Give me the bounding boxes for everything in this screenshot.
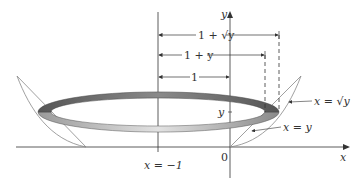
curve-label-sqrt: x = √y	[314, 95, 350, 108]
curve-label-linear: x = y	[283, 121, 312, 134]
outer-radius-label: 1 + √y	[198, 29, 235, 42]
unit-distance-label: 1	[191, 71, 198, 84]
dimension-outer-radius: 1 + √y	[159, 29, 279, 42]
mirrored-region	[17, 76, 86, 147]
x-axis	[16, 144, 350, 150]
diagram-canvas: 1 + √y 1 + y 1 y x = √y x = y y x 0 x = …	[0, 0, 363, 187]
dimension-unit: 1	[159, 71, 229, 84]
x-axis-arrow-icon	[343, 144, 350, 150]
y-marker-label: y	[217, 106, 225, 119]
rotation-axis-label: x = −1	[144, 159, 183, 172]
sqrt-curve-pointer	[289, 101, 312, 102]
origin-label: 0	[221, 151, 228, 164]
washer-ring	[38, 92, 279, 132]
dimension-inner-radius: 1 + y	[159, 49, 265, 62]
y-axis-arrow-icon	[227, 11, 233, 18]
x-axis-label: x	[340, 151, 347, 164]
inner-radius-label: 1 + y	[184, 49, 214, 62]
y-axis-label: y	[220, 8, 228, 21]
